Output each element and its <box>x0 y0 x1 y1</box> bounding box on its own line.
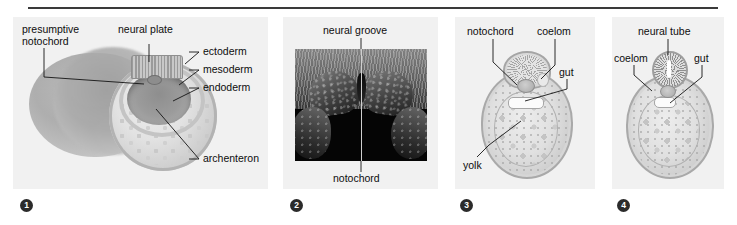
label-archenteron: archenteron <box>203 153 259 165</box>
label-gut-3: gut <box>559 67 574 79</box>
panel-2-leader-lines <box>283 17 438 189</box>
panel-4-leader-lines <box>612 17 724 189</box>
top-divider-rule <box>28 7 718 9</box>
panel-4-artwork: neural tube coelom gut <box>612 17 724 189</box>
label-notochord: notochord <box>333 173 380 185</box>
label-neural-tube-4: neural tube <box>638 26 691 38</box>
panel-2-artwork: neural groove notochord <box>283 17 438 189</box>
panel-2-number-badge: 2 <box>290 199 303 212</box>
label-neural-groove: neural groove <box>323 25 387 37</box>
label-presumptive-notochord-line1: presumptive <box>22 23 79 35</box>
panel-4: neural tube coelom gut <box>612 17 724 189</box>
label-coelom-4: coelom <box>614 53 648 65</box>
figure-sheet: presumptive notochord neural plate ectod… <box>0 0 737 225</box>
label-coelom-3: coelom <box>537 26 571 38</box>
panel-4-number-badge: 4 <box>617 199 630 212</box>
label-notochord-3: notochord <box>467 26 514 38</box>
panel-1-artwork: presumptive notochord neural plate ectod… <box>13 17 268 189</box>
label-neural-plate: neural plate <box>118 24 173 36</box>
panel-3: notochord coelom gut yolk <box>455 17 595 189</box>
label-presumptive-notochord-line2: notochord <box>22 35 69 47</box>
panel-2: neural groove notochord <box>283 17 438 189</box>
label-endoderm: endoderm <box>203 82 250 94</box>
panel-1-number-badge: 1 <box>20 199 33 212</box>
label-presumptive-notochord: presumptive notochord <box>22 24 100 47</box>
label-ectoderm: ectoderm <box>203 46 247 58</box>
label-mesoderm: mesoderm <box>203 64 253 76</box>
panel-1: presumptive notochord neural plate ectod… <box>13 17 268 189</box>
label-gut-4: gut <box>694 53 709 65</box>
label-yolk-3: yolk <box>463 160 482 172</box>
panel-3-number-badge: 3 <box>460 199 473 212</box>
panel-3-artwork: notochord coelom gut yolk <box>455 17 595 189</box>
